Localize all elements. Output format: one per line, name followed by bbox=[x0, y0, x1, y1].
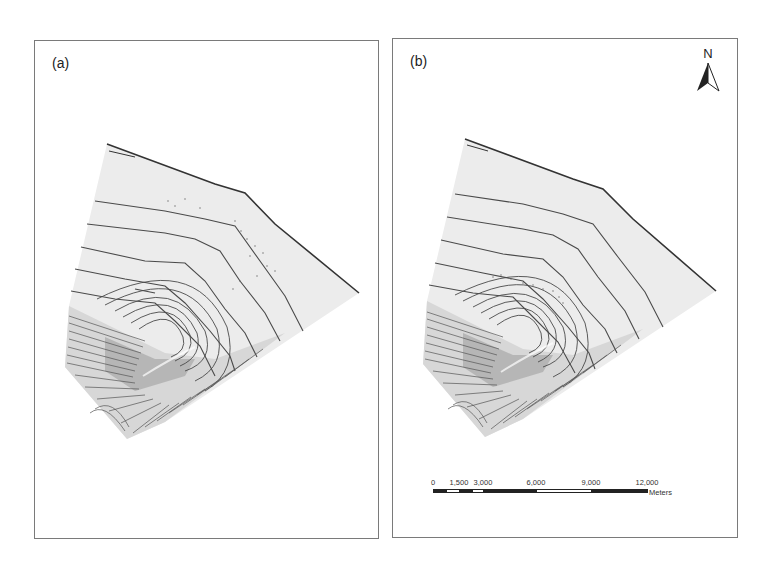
contour-map-a bbox=[35, 41, 380, 540]
scale-segment bbox=[459, 489, 473, 493]
scale-segment bbox=[483, 489, 537, 493]
map-panel-a: (a) bbox=[34, 40, 379, 539]
scale-tick-3: 6,000 bbox=[527, 478, 546, 487]
contour-map-b bbox=[393, 39, 739, 539]
scale-tick-0: 0 bbox=[431, 478, 435, 487]
scale-bar: 0 1,500 3,000 6,000 9,000 12,000 Meters bbox=[431, 478, 711, 508]
scale-segment bbox=[536, 489, 592, 493]
scale-tick-1: 1,500 bbox=[450, 478, 469, 487]
scale-tick-5: 12,000 bbox=[636, 478, 659, 487]
scale-tick-4: 9,000 bbox=[582, 478, 601, 487]
scale-segment bbox=[446, 489, 460, 493]
scale-segment bbox=[433, 489, 447, 493]
scale-tick-2: 3,000 bbox=[474, 478, 493, 487]
scale-units: Meters bbox=[649, 488, 672, 497]
map-panel-b: (b) N bbox=[392, 38, 738, 538]
scale-segment bbox=[591, 489, 648, 493]
